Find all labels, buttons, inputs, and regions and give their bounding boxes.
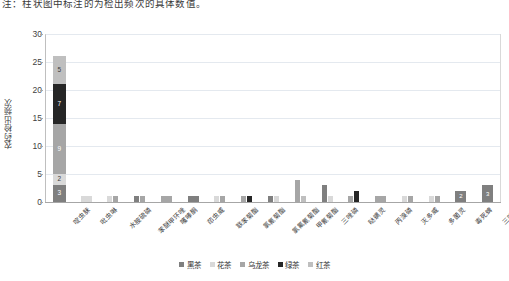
legend-label: 花茶 xyxy=(217,259,231,270)
bar-segment xyxy=(328,196,333,202)
bar-group[interactable]: 3 xyxy=(482,185,493,202)
bar-segment xyxy=(301,196,306,202)
bar-segment xyxy=(161,196,172,202)
y-axis-tick-label: 5 xyxy=(2,169,42,179)
bar-group[interactable]: 2 xyxy=(455,191,466,202)
bar-segment xyxy=(188,196,199,202)
y-axis-tick-mark xyxy=(40,62,43,63)
y-axis-tick-mark xyxy=(40,118,43,119)
x-axis-tick-label: 水胺硫磷 xyxy=(126,204,153,231)
bar-segment: 5 xyxy=(53,56,66,84)
bar-group[interactable] xyxy=(429,196,440,202)
bar-group[interactable] xyxy=(81,196,92,202)
bar-group[interactable] xyxy=(241,196,252,202)
x-axis-tick-label: 茚虫威 xyxy=(204,204,226,226)
x-axis-tick-label: 联苯菊酯 xyxy=(233,204,260,231)
bar-group[interactable] xyxy=(375,196,386,202)
bar-segment xyxy=(214,196,219,202)
legend-item[interactable]: 花茶 xyxy=(210,259,232,270)
legend-label: 黑茶 xyxy=(187,259,201,270)
bar-segment xyxy=(107,196,112,202)
bar-segment xyxy=(81,196,92,202)
bar-segment xyxy=(274,196,279,202)
bar-group[interactable] xyxy=(348,191,359,202)
figure-caption: 注：柱状图中标注的为检出频次的具体数值。 xyxy=(2,0,206,10)
bar-group[interactable] xyxy=(107,196,118,202)
bar-group[interactable] xyxy=(268,196,279,202)
x-axis-tick-label: 灭多威 xyxy=(418,204,440,226)
y-axis-tick-mark xyxy=(40,202,43,203)
legend-swatch-icon xyxy=(210,262,215,267)
bar-segment xyxy=(113,196,118,202)
y-axis-tick-mark xyxy=(40,174,43,175)
bar-group[interactable] xyxy=(161,196,172,202)
y-axis-tick-mark xyxy=(40,90,43,91)
legend-item[interactable]: 红茶 xyxy=(308,259,330,270)
stacked-bar[interactable]: 32975 xyxy=(53,56,66,202)
legend-label: 绿茶 xyxy=(285,259,299,270)
y-axis-tick-label: 20 xyxy=(2,85,42,95)
bar-segment xyxy=(402,196,407,202)
bar-group[interactable] xyxy=(322,185,333,202)
bar-group[interactable] xyxy=(402,196,413,202)
x-axis-tick-label: 三唑磷 xyxy=(338,204,360,226)
bar-segment xyxy=(241,196,246,202)
bar-group[interactable] xyxy=(214,196,225,202)
bar-segment: 2 xyxy=(455,191,466,202)
x-axis-tick-label: 啶虫脒 xyxy=(71,204,93,226)
bars-layer: 3297523 xyxy=(46,34,501,202)
y-axis-tick-label: 0 xyxy=(2,197,42,207)
legend-item[interactable]: 黑茶 xyxy=(179,259,201,270)
bar-segment xyxy=(375,196,386,202)
bar-segment: 3 xyxy=(482,185,493,202)
x-axis-tick-label: 三唑酮 xyxy=(499,204,509,226)
bar-segment: 9 xyxy=(53,124,66,174)
x-axis-tick-label: 毒死蜱 xyxy=(472,204,494,226)
bar-segment: 2 xyxy=(53,174,66,185)
bar-group[interactable] xyxy=(188,196,199,202)
bar-segment xyxy=(429,196,434,202)
y-axis-tick-label: 10 xyxy=(2,141,42,151)
bar-segment xyxy=(435,196,440,202)
legend-swatch-icon xyxy=(240,262,245,267)
y-axis-ticks: 051015202530 xyxy=(0,34,42,202)
x-axis-tick-label: 氯氰菊酯 xyxy=(260,204,287,231)
legend-label: 乌龙茶 xyxy=(248,259,269,270)
bar-segment xyxy=(408,196,413,202)
legend-swatch-icon xyxy=(278,262,283,267)
bar-segment: 3 xyxy=(53,185,66,202)
bar-segment xyxy=(295,180,300,202)
bar-segment: 7 xyxy=(53,84,66,123)
bar-group[interactable] xyxy=(134,196,145,202)
bar-segment xyxy=(140,196,145,202)
bar-segment xyxy=(322,185,327,202)
chart-figure: 注：柱状图中标注的为检出频次的具体数值。 农药检出频次 051015202530… xyxy=(0,0,509,281)
bar-segment xyxy=(268,196,273,202)
legend-item[interactable]: 绿茶 xyxy=(278,259,300,270)
y-axis-tick-mark xyxy=(40,146,43,147)
x-axis-tick-label: 丙溴磷 xyxy=(392,204,414,226)
y-axis-tick-mark xyxy=(40,34,43,35)
bar-segment xyxy=(247,196,252,202)
y-axis-tick-label: 15 xyxy=(2,113,42,123)
x-axis-labels: 啶虫脒吡虫啉水胺硫磷苯醚甲环唑噻嗪酮茚虫威联苯菊酯氯氰菊酯氯氟氰菊酯甲氰菊酯三唑… xyxy=(46,204,501,264)
bar-segment xyxy=(134,196,139,202)
chart-legend: 黑茶花茶乌龙茶绿茶红茶 xyxy=(0,259,509,270)
x-axis-tick-label: 哒螨灵 xyxy=(365,204,387,226)
legend-swatch-icon xyxy=(308,262,313,267)
bar-group[interactable] xyxy=(295,180,306,202)
legend-swatch-icon xyxy=(179,262,184,267)
bar-segment xyxy=(354,191,359,202)
x-axis-tick-label: 吡虫啉 xyxy=(97,204,119,226)
y-axis-tick-label: 25 xyxy=(2,57,42,67)
bar-segment xyxy=(220,196,225,202)
y-axis-tick-label: 30 xyxy=(2,29,42,39)
legend-label: 红茶 xyxy=(316,259,330,270)
legend-item[interactable]: 乌龙茶 xyxy=(240,259,269,270)
bar-segment xyxy=(348,196,353,202)
x-axis-tick-label: 多菌灵 xyxy=(445,204,467,226)
